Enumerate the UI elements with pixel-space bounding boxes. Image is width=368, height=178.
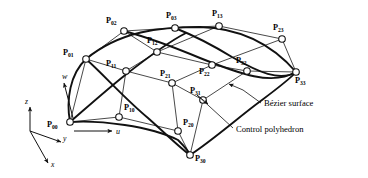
control-point-label-p20: P20: [183, 118, 194, 128]
surface-curve-w-boundary-u1: [190, 72, 296, 155]
control-point-p01[interactable]: [83, 56, 90, 63]
control-point-p32[interactable]: [244, 68, 251, 75]
control-point-labels: P00P01P02P03P10P11P12P13P20P21P22P23P30P…: [47, 9, 306, 164]
polyhedron-edge-p20-p21: [172, 83, 178, 131]
polyhedron-edge-p32-p33: [247, 71, 296, 72]
control-point-label-p01: P01: [63, 48, 74, 58]
control-point-label-p23: P23: [273, 23, 284, 33]
surface-pointer-arrow: [229, 84, 243, 90]
control-point-label-p31: P31: [190, 86, 201, 96]
control-point-p11[interactable]: [123, 68, 130, 75]
bezier-surface-figure: P00P01P02P03P10P11P12P13P20P21P22P23P30P…: [0, 0, 368, 178]
control-point-p13[interactable]: [216, 23, 223, 30]
control-point-label-p12: P12: [147, 36, 158, 46]
polyhedron-edge-p12-p13: [157, 26, 219, 52]
coordinate-axes: zyx: [24, 97, 67, 169]
control-point-label-p03: P03: [166, 11, 177, 21]
axis-label-z: z: [24, 97, 28, 106]
axis-x: [30, 131, 48, 163]
control-point-p02[interactable]: [121, 28, 128, 35]
control-point-label-p11: P11: [106, 59, 117, 69]
parameter-label-u: u: [116, 127, 120, 136]
control-point-p21[interactable]: [169, 80, 176, 87]
control-point-label-p32: P32: [236, 56, 247, 66]
leader-line-bezier-surface: [243, 90, 261, 103]
control-point-p30[interactable]: [187, 152, 194, 159]
annotation-bezier-surface: Bézier surface: [264, 98, 314, 108]
control-point-p00[interactable]: [67, 119, 74, 126]
surface-curve-u-boundary-w1: [86, 27, 296, 72]
control-point-p12[interactable]: [154, 49, 161, 56]
control-point-label-p02: P02: [106, 16, 117, 26]
annotation-control-polyhedron: Control polyhedron: [236, 124, 304, 134]
control-polyhedron-edges: [70, 26, 296, 155]
control-point-label-p33: P33: [295, 76, 306, 86]
leader-line-control-polyhedron: [197, 95, 233, 128]
control-point-p20[interactable]: [175, 128, 182, 135]
control-point-p33[interactable]: [293, 69, 300, 76]
control-point-p10[interactable]: [116, 114, 123, 121]
control-point-label-p00: P00: [47, 120, 58, 130]
control-point-label-p13: P13: [212, 9, 223, 19]
axis-y: [30, 131, 61, 142]
control-point-label-p30: P30: [195, 154, 206, 164]
axis-label-x: x: [50, 160, 55, 169]
control-point-p22[interactable]: [209, 62, 216, 69]
figure-canvas: P00P01P02P03P10P11P12P13P20P21P22P23P30P…: [0, 0, 368, 178]
control-point-nodes: [67, 23, 300, 159]
control-point-label-p21: P21: [160, 69, 171, 79]
surface-curve-u-boundary-w0: [70, 122, 190, 155]
annotation-callouts: Bézier surfaceControl polyhedron: [197, 84, 314, 134]
polyhedron-edge-p23-p33: [282, 39, 296, 72]
control-point-p23[interactable]: [279, 36, 286, 43]
parameter-label-w: w: [62, 72, 68, 81]
surface-curve-interior-iso-c: [86, 59, 190, 155]
control-point-p03[interactable]: [172, 25, 179, 32]
axis-label-y: y: [62, 134, 67, 143]
